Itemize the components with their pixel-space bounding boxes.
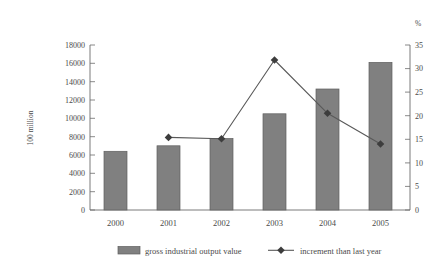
right-tick-label: 20 — [415, 112, 423, 121]
right-axis-unit-label: % — [415, 19, 421, 28]
category-label-2001: 2001 — [160, 218, 177, 228]
right-tick-label: 0 — [415, 206, 419, 215]
axes-group — [90, 45, 410, 210]
bar-2000 — [104, 151, 127, 210]
right-tick-label: 10 — [415, 159, 423, 168]
chart-container: 0 2000 4000 6000 8000 10000 12000 14000 … — [0, 0, 438, 264]
left-tick-label: 6000 — [69, 151, 85, 160]
legend-label-gross-industrial-output-value: gross industrial output value — [145, 246, 242, 256]
category-axis-labels: 2000 2001 2002 2003 2004 2005 — [107, 218, 389, 228]
left-tick-label: 14000 — [65, 78, 85, 87]
bar-2001 — [157, 146, 180, 210]
right-tick-label: 35 — [415, 41, 423, 50]
category-label-2003: 2003 — [266, 218, 283, 228]
line-marker-2001 — [165, 134, 173, 142]
right-axis-ticks — [405, 45, 410, 210]
right-tick-label: 25 — [415, 88, 423, 97]
legend-swatch-bar — [118, 247, 140, 255]
left-tick-label: 0 — [81, 206, 85, 215]
left-axis-title: 100 million — [26, 110, 35, 145]
category-label-2004: 2004 — [319, 218, 337, 228]
bar-2004 — [316, 89, 339, 210]
left-tick-label: 12000 — [65, 96, 85, 105]
left-tick-label: 8000 — [69, 133, 85, 142]
bar-2005 — [369, 62, 392, 210]
right-tick-label: 5 — [415, 182, 419, 191]
left-tick-label: 4000 — [69, 169, 85, 178]
left-axis-ticks — [90, 45, 95, 210]
combo-chart-svg: 0 2000 4000 6000 8000 10000 12000 14000 … — [0, 0, 438, 264]
legend-marker-diamond-icon — [277, 247, 285, 255]
category-label-2002: 2002 — [213, 218, 230, 228]
chart-legend: gross industrial output value increment … — [118, 246, 382, 256]
category-label-2005: 2005 — [372, 218, 389, 228]
bar-2002 — [210, 139, 233, 211]
left-tick-label: 2000 — [69, 188, 85, 197]
category-label-2000: 2000 — [107, 218, 124, 228]
right-tick-label: 30 — [415, 64, 423, 73]
left-axis-tick-labels: 0 2000 4000 6000 8000 10000 12000 14000 … — [65, 41, 85, 215]
left-tick-label: 16000 — [65, 59, 85, 68]
left-tick-label: 18000 — [65, 41, 85, 50]
right-tick-label: 15 — [415, 135, 423, 144]
bar-2003 — [263, 114, 286, 210]
left-tick-label: 10000 — [65, 114, 85, 123]
legend-label-increment-than-last-year: increment than last year — [300, 246, 382, 256]
right-axis-tick-labels: 0 5 10 15 20 25 30 35 — [415, 41, 423, 215]
bar-series-group — [104, 62, 392, 210]
